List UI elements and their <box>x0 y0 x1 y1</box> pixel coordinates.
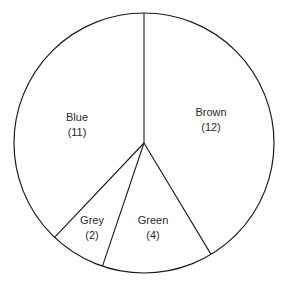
slice-value-blue: (11) <box>68 126 87 138</box>
slice-name-grey: Grey <box>80 214 104 226</box>
slice-name-blue: Blue <box>66 111 88 123</box>
slice-name-green: Green <box>138 214 169 226</box>
slice-value-grey: (2) <box>85 229 98 241</box>
slice-name-brown: Brown <box>195 106 226 118</box>
slice-value-green: (4) <box>146 229 159 241</box>
pie-chart: Brown (12) Green (4) Grey (2) Blue (11) <box>0 0 286 283</box>
slice-value-brown: (12) <box>201 121 221 133</box>
